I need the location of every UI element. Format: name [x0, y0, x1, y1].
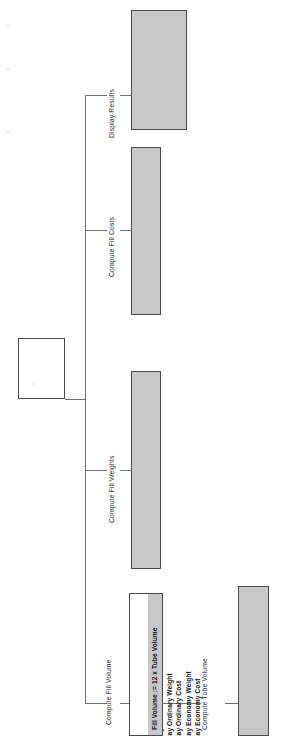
compute-fill-volume-box[interactable]: Compute Tube Volume Fill Volume := 12 x …: [129, 593, 163, 736]
compute-fill-volume-gray-lines: Fill Volume := 12 x Tube Volume: [148, 594, 163, 735]
connector-root-stub: [65, 399, 86, 400]
scan-speck: [7, 131, 9, 133]
connector-branch-display-results: [85, 95, 107, 96]
connector-stub-fill-volume-box: [120, 703, 129, 704]
scan-speck: [32, 383, 34, 385]
connector-stub-fill-weights-box: [120, 470, 131, 471]
connector-branch-fill-costs: [85, 230, 107, 231]
scan-speck: [7, 25, 9, 27]
root-line-0: Compute Fill Weights: [23, 344, 33, 736]
scan-speck: [7, 68, 9, 70]
connector-stub-display-results-box: [120, 95, 131, 96]
subtree-label-compute-tube-volume: Compute Tube Volume: [201, 630, 209, 730]
compute-fill-costs-box[interactable]: Premium Cost := Premium Weight x Premium…: [131, 147, 161, 315]
root-line-1: Compute Fill Costs: [33, 344, 43, 736]
compute-tube-volume-line-0: Radius := Diameter/2: [243, 592, 253, 736]
root-module-lines: Compute Fill Weights Compute Fill Costs …: [19, 339, 56, 736]
compute-tube-volume-box[interactable]: Radius := Diameter/2 Tube Volume := π x …: [238, 586, 269, 736]
display-results-box[interactable]: Display Fill Volume Display Premium Weig…: [131, 10, 187, 130]
compute-fill-volume-white-lines: Compute Tube Volume: [130, 594, 148, 736]
root-line-2: Display Results: [42, 344, 52, 736]
compute-tube-volume-line-1: Tube Volume := π x Radius² x Length: [253, 592, 263, 736]
root-module-box[interactable]: Compute Fill Weights Compute Fill Costs …: [18, 338, 65, 399]
connector-branch-fill-weights: [85, 470, 107, 471]
connector-subtree-tube-volume-in: [225, 703, 238, 704]
branch-label-compute-fill-weights: Compute Fill Weights: [108, 423, 116, 523]
compute-fill-volume-line-1: Fill Volume := 12 x Tube Volume: [150, 599, 160, 730]
display-results-line-6: Display Economy Cost: [193, 16, 203, 736]
branch-label-compute-fill-costs: Compute Fill Costs: [108, 185, 116, 277]
connector-stub-fill-costs-box: [120, 230, 131, 231]
compute-fill-weights-box[interactable]: Premium Weight := Fill Volume/Premium Lo…: [131, 371, 161, 569]
branch-label-display-results: Display Results: [108, 52, 116, 138]
display-results-line-4: Display Ordinary Cost: [174, 16, 184, 736]
display-results-line-5: Display Economy Weight: [184, 16, 194, 736]
branch-label-compute-fill-volume: Compute Fill Volume: [105, 625, 113, 725]
compute-tube-volume-lines: Radius := Diameter/2 Tube Volume := π x …: [239, 587, 266, 736]
structure-chart-canvas: Compute Fill Weights Compute Fill Costs …: [0, 0, 285, 736]
connector-branch-fill-volume: [85, 703, 107, 704]
compute-fill-volume-line-0: Compute Tube Volume: [135, 599, 145, 736]
